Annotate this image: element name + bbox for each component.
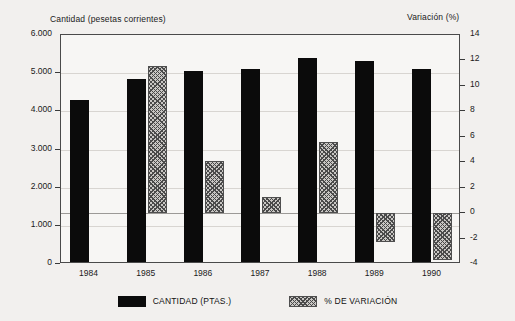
- gridline: [61, 226, 459, 227]
- bar-chart: Cantidad (pesetas corrientes) Variación …: [0, 0, 515, 321]
- x-label-1987: 1987: [232, 268, 288, 278]
- bar-cantidad-1986: [184, 71, 203, 263]
- left-tick: [55, 263, 60, 264]
- right-tick: [460, 110, 465, 111]
- right-tick-label: 2: [470, 181, 510, 191]
- bar-cantidad-1988: [298, 58, 317, 263]
- right-tick-label: 10: [470, 79, 510, 89]
- bar-cantidad-1989: [355, 61, 374, 263]
- right-tick-label: 4: [470, 155, 510, 165]
- legend-item: CANTIDAD (PTAS.): [118, 296, 232, 307]
- bar-variacion-1989: [376, 213, 395, 242]
- legend-label: % DE VARIACIÓN: [324, 296, 397, 306]
- bar-variacion-1985: [148, 66, 167, 214]
- left-tick: [55, 187, 60, 188]
- chart-legend: CANTIDAD (PTAS.)% DE VARIACIÓN: [0, 291, 515, 311]
- left-axis-title: Cantidad (pesetas corrientes): [50, 14, 166, 24]
- right-tick-label: -4: [470, 257, 510, 267]
- bar-cantidad-1985: [127, 79, 146, 263]
- zero-line: [61, 213, 459, 214]
- left-tick: [55, 110, 60, 111]
- left-tick-label: 0: [12, 257, 52, 267]
- legend-swatch-icon: [289, 296, 317, 307]
- left-tick-label: 2.000: [12, 181, 52, 191]
- bar-variacion-1986: [205, 161, 224, 213]
- right-tick-label: 14: [470, 28, 510, 38]
- right-tick-label: 8: [470, 104, 510, 114]
- bar-cantidad-1984: [70, 100, 89, 263]
- gridline: [61, 150, 459, 151]
- bar-cantidad-1990: [412, 69, 431, 263]
- right-tick: [460, 238, 465, 239]
- x-label-1986: 1986: [175, 268, 231, 278]
- left-tick-label: 5.000: [12, 66, 52, 76]
- bar-variacion-1988: [319, 142, 338, 213]
- bar-variacion-1990: [433, 213, 452, 260]
- gridline: [61, 73, 459, 74]
- gridline: [61, 111, 459, 112]
- legend-label: CANTIDAD (PTAS.): [153, 296, 232, 306]
- bar-variacion-1987: [262, 197, 281, 214]
- x-label-1990: 1990: [403, 268, 459, 278]
- left-tick-label: 3.000: [12, 143, 52, 153]
- right-tick: [460, 136, 465, 137]
- right-tick: [460, 161, 465, 162]
- left-tick: [55, 225, 60, 226]
- legend-swatch-icon: [118, 296, 146, 307]
- right-axis-title: Variación (%): [407, 12, 459, 22]
- right-tick-label: 12: [470, 53, 510, 63]
- gridline: [61, 188, 459, 189]
- left-tick-label: 1.000: [12, 219, 52, 229]
- right-tick: [460, 212, 465, 213]
- x-label-1989: 1989: [346, 268, 402, 278]
- left-tick-label: 4.000: [12, 104, 52, 114]
- x-label-1988: 1988: [289, 268, 345, 278]
- x-label-1985: 1985: [118, 268, 174, 278]
- right-tick-label: 6: [470, 130, 510, 140]
- left-tick: [55, 72, 60, 73]
- left-tick-label: 6.000: [12, 28, 52, 38]
- right-tick-label: -2: [470, 232, 510, 242]
- x-label-1984: 1984: [61, 268, 117, 278]
- bar-cantidad-1987: [241, 69, 260, 263]
- right-tick: [460, 187, 465, 188]
- right-tick: [460, 85, 465, 86]
- plot-area: [60, 34, 460, 263]
- right-tick-label: 0: [470, 206, 510, 216]
- right-tick: [460, 59, 465, 60]
- legend-item: % DE VARIACIÓN: [289, 296, 397, 307]
- left-tick: [55, 149, 60, 150]
